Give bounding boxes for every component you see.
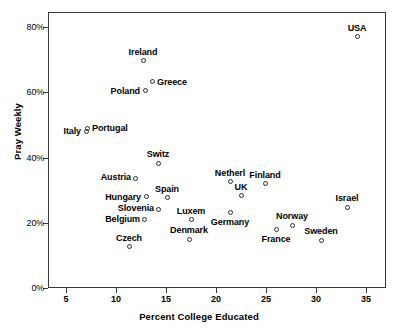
data-point-label: Hungary xyxy=(105,192,141,201)
x-tick-label: 15 xyxy=(154,295,178,304)
data-point-label: UK xyxy=(235,183,248,192)
data-point-label: Norway xyxy=(276,212,308,221)
data-point[interactable] xyxy=(274,227,279,232)
data-point[interactable] xyxy=(319,238,324,243)
data-point[interactable] xyxy=(156,161,161,166)
data-point-label: Italy xyxy=(63,127,81,136)
data-point-label: Greece xyxy=(157,77,187,86)
data-point[interactable] xyxy=(345,205,350,210)
data-point[interactable] xyxy=(133,176,138,181)
data-point[interactable] xyxy=(355,34,360,39)
plot-area xyxy=(48,12,386,288)
data-point[interactable] xyxy=(143,88,148,93)
x-tick-mark xyxy=(116,288,117,293)
x-axis-title: Percent College Educated xyxy=(0,311,398,322)
y-tick-label: 60% xyxy=(27,88,44,97)
data-point-label: Switz xyxy=(147,150,170,159)
data-point-label: France xyxy=(262,235,291,244)
data-point[interactable] xyxy=(127,244,132,249)
data-point[interactable] xyxy=(290,223,295,228)
data-point[interactable] xyxy=(142,217,147,222)
data-point-label: Czech xyxy=(116,234,142,243)
data-point-label: Austria xyxy=(101,173,131,182)
data-point-label: Finland xyxy=(249,171,280,180)
y-tick-label: 80% xyxy=(27,23,44,32)
data-point-label: Ireland xyxy=(129,48,158,57)
x-tick-mark xyxy=(166,288,167,293)
y-tick-label: 20% xyxy=(27,219,44,228)
data-point-label: Belgium xyxy=(105,214,140,223)
x-tick-mark xyxy=(366,288,367,293)
data-point-label: Sweden xyxy=(304,227,337,236)
data-point[interactable] xyxy=(84,129,89,134)
data-point[interactable] xyxy=(187,237,192,242)
x-tick-mark xyxy=(266,288,267,293)
data-point-label: Denmark xyxy=(170,226,208,235)
x-tick-label: 35 xyxy=(354,295,378,304)
data-point-label: Poland xyxy=(111,86,140,95)
data-point[interactable] xyxy=(150,79,155,84)
x-tick-mark xyxy=(316,288,317,293)
data-point-label: Germany xyxy=(211,218,249,227)
data-point-label: Slovenia xyxy=(118,204,154,213)
x-tick-label: 5 xyxy=(54,295,78,304)
scatter-chart: 0%20%40%60%80% 5101520253035 USAIrelandG… xyxy=(0,0,398,334)
data-point-label: USA xyxy=(348,24,367,33)
y-tick-label: 40% xyxy=(27,154,44,163)
data-point[interactable] xyxy=(156,207,161,212)
data-point-label: Portugal xyxy=(92,124,128,133)
data-point-label: Netherl xyxy=(215,169,245,178)
x-tick-label: 10 xyxy=(104,295,128,304)
x-tick-label: 30 xyxy=(304,295,328,304)
y-axis-title: Pray Weekly xyxy=(12,77,23,187)
y-tick-label: 0% xyxy=(31,284,44,293)
data-point-label: Luxem xyxy=(177,207,206,216)
data-point-label: Spain xyxy=(155,185,179,194)
x-tick-label: 25 xyxy=(254,295,278,304)
x-tick-label: 20 xyxy=(204,295,228,304)
x-tick-mark xyxy=(216,288,217,293)
data-point-label: Israel xyxy=(336,194,359,203)
data-point[interactable] xyxy=(189,217,194,222)
x-tick-mark xyxy=(66,288,67,293)
